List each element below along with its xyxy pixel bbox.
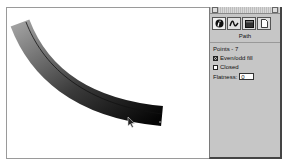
flatness-label: Flatness: (213, 74, 237, 80)
even-odd-fill-option[interactable]: Even/odd fill (210, 55, 280, 61)
flatness-input[interactable]: 0 (239, 73, 254, 80)
drawing-canvas[interactable] (7, 8, 208, 158)
zoom-box-icon[interactable] (272, 7, 278, 13)
panel-title: Path (210, 33, 280, 43)
tab-stroke[interactable] (227, 17, 241, 30)
even-odd-fill-label: Even/odd fill (220, 55, 253, 61)
tab-info[interactable] (212, 17, 226, 30)
inspector-panel: Path Points - 7 Even/odd fill Closed Fla… (209, 7, 282, 159)
inspector-tabs (210, 14, 280, 31)
close-box-icon[interactable] (212, 7, 218, 13)
fill-swatch-icon (245, 20, 254, 28)
even-odd-fill-checkbox[interactable] (213, 56, 218, 61)
stroke-squiggle-icon (229, 20, 239, 28)
tab-document[interactable] (257, 17, 271, 30)
document-icon (261, 19, 268, 28)
info-icon (215, 19, 224, 28)
flatness-row: Flatness: 0 (210, 73, 280, 80)
closed-option[interactable]: Closed (210, 64, 280, 70)
points-count: Points - 7 (210, 46, 280, 52)
points-label: Points - 7 (213, 46, 238, 52)
tab-fill[interactable] (242, 17, 256, 30)
closed-checkbox[interactable] (213, 65, 218, 70)
closed-label: Closed (220, 64, 239, 70)
inspector-titlebar[interactable] (210, 7, 280, 14)
curved-path[interactable] (7, 8, 208, 158)
